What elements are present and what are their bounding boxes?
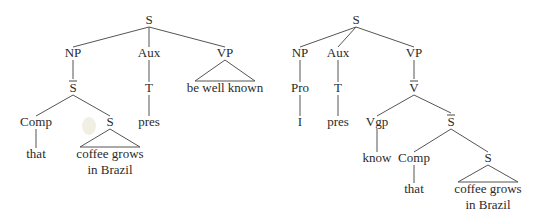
tree-edge — [73, 95, 110, 116]
tree-edge — [36, 95, 73, 116]
tree-node-bwk: be well known — [187, 80, 264, 95]
tree-node-vp: VP — [217, 45, 234, 60]
tree-node-sbar: S — [69, 80, 76, 95]
tree-node-vgp: Vgp — [366, 114, 388, 129]
tree-node-vbar: V — [409, 80, 419, 95]
tree-edge — [73, 27, 149, 47]
tree-node-brazil2: in Brazil — [465, 197, 511, 212]
tree-node-t: T — [145, 80, 153, 95]
tree-edge — [377, 95, 414, 116]
tree-edge — [414, 129, 451, 152]
tree-node-pres: pres — [138, 114, 160, 129]
tree-labels: SNPAuxVPSTCompSpresthatcoffee growsin Br… — [20, 12, 522, 212]
tree-node-coffee1: coffee grows — [76, 146, 143, 161]
tree-edge — [356, 27, 414, 47]
tree-node-vp: VP — [406, 45, 423, 60]
tree-node-comp: Comp — [398, 150, 430, 165]
tree-node-s: S — [352, 12, 359, 27]
tree-node-t: T — [334, 80, 342, 95]
tree-node-brazil1: in Brazil — [87, 162, 133, 177]
tree-node-that: that — [26, 146, 46, 161]
syntax-tree-diagram: SNPAuxVPSTCompSpresthatcoffee growsin Br… — [0, 0, 536, 219]
tree-node-s: S — [145, 12, 152, 27]
tree-edge — [414, 95, 451, 113]
tree-node-s2: S — [484, 150, 491, 165]
tree-node-s2: S — [106, 114, 113, 129]
triangle-abbreviation — [195, 60, 255, 81]
tree-node-aux: Aux — [327, 45, 350, 60]
tree-node-that: that — [404, 181, 424, 196]
tree-node-np: NP — [65, 45, 82, 60]
tree-node-sbar: S — [447, 114, 454, 129]
tree-node-pro: Pro — [291, 80, 309, 95]
tree-edge — [451, 129, 488, 152]
tree-node-pres: pres — [327, 114, 349, 129]
triangle-abbreviation — [458, 165, 518, 182]
tree-node-aux: Aux — [138, 45, 161, 60]
tree-edge — [149, 27, 225, 47]
tree-node-np: NP — [292, 45, 309, 60]
tree-node-i: I — [298, 114, 302, 129]
tree-node-know: know — [363, 150, 393, 165]
tree-node-comp: Comp — [20, 114, 52, 129]
smudge-mark — [82, 117, 96, 135]
tree-node-coffee2: coffee grows — [454, 181, 521, 196]
